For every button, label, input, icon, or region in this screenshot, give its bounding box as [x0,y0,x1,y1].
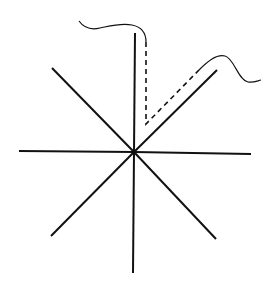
ray-west [19,151,134,152]
ray-east [134,152,251,154]
rays-group [19,33,251,273]
ray-south-west [51,152,134,236]
diagram-canvas [0,0,272,302]
ray-south-east [134,152,216,239]
radiating-lines-diagram [0,0,272,302]
dashed-path [146,42,199,124]
ray-north [134,33,135,152]
ray-south [133,152,134,273]
ray-north-west [52,68,134,152]
